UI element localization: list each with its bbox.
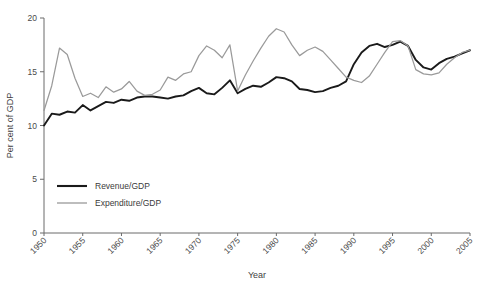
x-tick-label: 1990 bbox=[338, 235, 359, 256]
x-tick-label: 1965 bbox=[144, 235, 165, 256]
series-line-expenditure bbox=[44, 29, 470, 111]
y-tick-label: 5 bbox=[32, 174, 37, 184]
x-tick-label: 2005 bbox=[454, 235, 475, 256]
y-tick-label: 20 bbox=[28, 13, 38, 23]
x-tick-label: 1995 bbox=[377, 235, 398, 256]
legend-label: Revenue/GDP bbox=[95, 181, 150, 191]
x-tick-label: 1980 bbox=[260, 235, 281, 256]
y-tick-label: 15 bbox=[28, 67, 38, 77]
x-axis-title: Year bbox=[248, 270, 266, 280]
x-tick-label: 2000 bbox=[415, 235, 436, 256]
y-axis-title: Per cent of GDP bbox=[5, 93, 15, 159]
legend-item: Revenue/GDP bbox=[57, 181, 150, 191]
y-tick-label: 0 bbox=[32, 228, 37, 238]
x-tick-label: 1975 bbox=[222, 235, 243, 256]
x-tick-label: 1950 bbox=[28, 235, 49, 256]
chart-figure: 0510152019501955196019651970197519801985… bbox=[0, 0, 496, 288]
line-chart: 0510152019501955196019651970197519801985… bbox=[0, 0, 496, 288]
x-tick-label: 1955 bbox=[67, 235, 88, 256]
x-tick-label: 1970 bbox=[183, 235, 204, 256]
x-tick-label: 1985 bbox=[299, 235, 320, 256]
x-tick-label: 1960 bbox=[105, 235, 126, 256]
legend-label: Expenditure/GDP bbox=[95, 198, 161, 208]
y-tick-label: 10 bbox=[28, 121, 38, 131]
legend-item: Expenditure/GDP bbox=[57, 198, 161, 208]
